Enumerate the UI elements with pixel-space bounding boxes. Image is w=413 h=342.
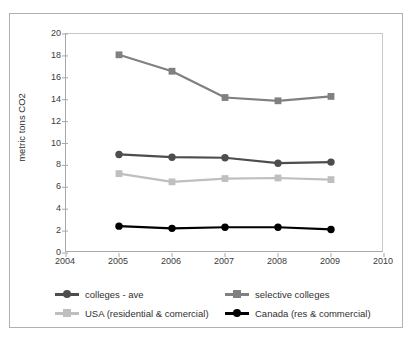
y-tick-label: 16	[27, 72, 61, 81]
legend-marker-icon	[225, 288, 249, 300]
legend-item[interactable]: Canada (res & commercial)	[225, 305, 371, 321]
legend-item[interactable]: colleges - ave	[55, 286, 144, 302]
data-point-marker	[274, 160, 281, 167]
data-point-marker	[274, 224, 281, 231]
chart-figure: 02468101214161820 metric tons CO2 200420…	[9, 13, 403, 328]
legend-symbol	[233, 309, 241, 317]
x-tick-label: 2004	[45, 255, 85, 267]
data-point-marker	[221, 154, 228, 161]
series-0	[115, 151, 334, 167]
data-point-marker	[327, 226, 334, 233]
x-tick-label: 2009	[310, 255, 350, 267]
y-tick-label: 12	[27, 116, 61, 125]
x-axis-tick-labels: 2004200520062007200820092010	[65, 255, 383, 269]
data-point-marker	[169, 178, 176, 185]
y-tick-label: 4	[27, 204, 61, 213]
plot-area	[65, 33, 383, 252]
x-tick-label: 2010	[363, 255, 403, 267]
y-axis-title: metric tons CO2	[16, 73, 27, 183]
data-point-marker	[328, 93, 335, 100]
x-tick-label: 2005	[98, 255, 138, 267]
legend-label: USA (residential & comercial)	[85, 308, 209, 319]
y-tick-label: 20	[27, 29, 61, 38]
legend-marker-icon	[55, 307, 79, 319]
legend-item[interactable]: USA (residential & comercial)	[55, 305, 209, 321]
legend-item[interactable]: selective colleges	[225, 286, 329, 302]
series-2	[116, 170, 335, 185]
data-point-marker	[168, 225, 175, 232]
y-tick-label: 6	[27, 182, 61, 191]
legend-symbol	[63, 309, 71, 317]
x-tick-label: 2008	[257, 255, 297, 267]
data-point-marker	[275, 175, 282, 182]
data-point-marker	[115, 151, 122, 158]
legend-label: Canada (res & commercial)	[255, 308, 371, 319]
series-1	[116, 51, 335, 104]
x-tick-label: 2007	[204, 255, 244, 267]
data-point-marker	[222, 175, 229, 182]
y-tick-label: 10	[27, 138, 61, 147]
data-point-marker	[221, 224, 228, 231]
data-point-marker	[222, 94, 229, 101]
legend-marker-icon	[225, 307, 249, 319]
y-tick-label: 18	[27, 50, 61, 59]
data-point-marker	[169, 68, 176, 75]
series-3	[115, 222, 334, 233]
data-point-marker	[275, 97, 282, 104]
data-point-marker	[116, 170, 123, 177]
data-point-marker	[327, 158, 334, 165]
legend-symbol	[233, 290, 241, 298]
data-point-marker	[115, 222, 122, 229]
legend-symbol	[63, 290, 71, 298]
x-tick-label: 2006	[151, 255, 191, 267]
data-point-marker	[328, 176, 335, 183]
chart-legend: colleges - aveselective collegesUSA (res…	[55, 286, 395, 322]
plot-svg	[66, 34, 384, 253]
legend-marker-icon	[55, 288, 79, 300]
y-tick-label: 8	[27, 160, 61, 169]
data-point-marker	[168, 153, 175, 160]
y-tick-label: 14	[27, 94, 61, 103]
series-line	[119, 55, 331, 101]
data-point-marker	[116, 51, 123, 58]
legend-label: selective colleges	[255, 289, 329, 300]
y-tick-label: 2	[27, 226, 61, 235]
legend-label: colleges - ave	[85, 289, 144, 300]
